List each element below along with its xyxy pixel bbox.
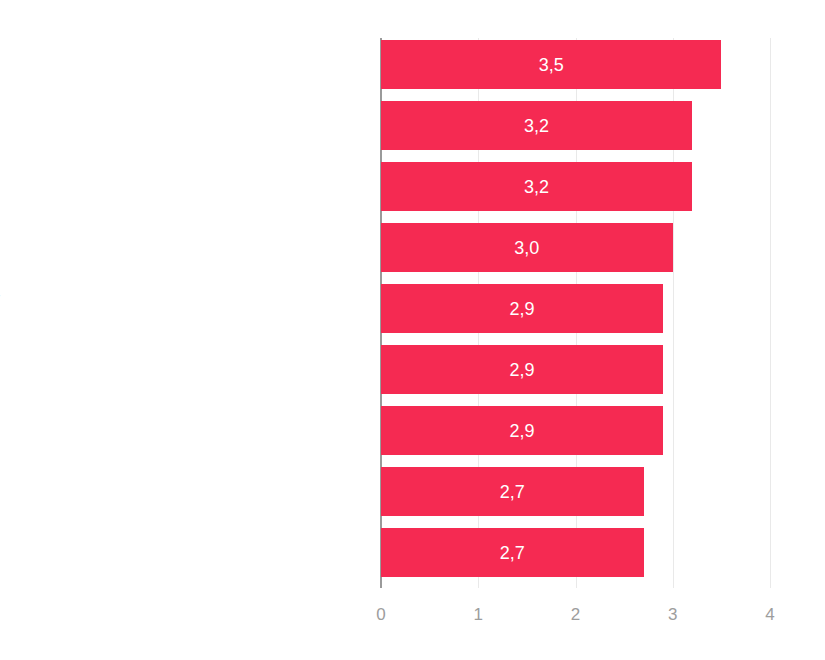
- bar-value-label: 2,7: [381, 483, 644, 501]
- x-tick-label: 4: [750, 605, 790, 625]
- x-tick-label: 2: [556, 605, 596, 625]
- x-tick-label: 0: [361, 605, 401, 625]
- bar-value-label: 3,0: [381, 239, 673, 257]
- bar-value-label: 3,5: [381, 56, 721, 74]
- x-tick-label: 1: [458, 605, 498, 625]
- bar-value-label: 2,9: [381, 422, 663, 440]
- bar-value-label: 3,2: [381, 178, 692, 196]
- bar-value-label: 2,9: [381, 300, 663, 318]
- bar-chart: Competition with other personal trainers…: [0, 0, 825, 660]
- gridline-4: [770, 38, 771, 588]
- bar-value-label: 2,9: [381, 361, 663, 379]
- bar-value-label: 3,2: [381, 117, 692, 135]
- x-tick-label: 3: [653, 605, 693, 625]
- bar-value-label: 2,7: [381, 544, 644, 562]
